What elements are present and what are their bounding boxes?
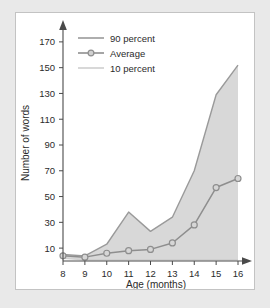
data-point-marker	[169, 240, 175, 246]
chart-panel: 1030507090110130150170 8910111213141516 …	[15, 12, 255, 290]
y-axis-ticks	[59, 42, 63, 248]
y-axis-title: Number of words	[20, 105, 31, 181]
y-tick-label: 10	[44, 243, 55, 254]
legend-label-10-percent: 10 percent	[110, 63, 155, 74]
legend-item-average: Average	[78, 48, 145, 59]
x-tick-label: 11	[124, 268, 134, 279]
y-tick-label: 150	[39, 62, 55, 73]
y-axis-arrow-icon	[59, 20, 67, 30]
y-axis	[59, 20, 67, 261]
x-axis-ticks	[63, 261, 238, 265]
data-point-marker	[82, 254, 88, 260]
x-tick-label: 13	[167, 268, 178, 279]
legend-marker-average	[88, 50, 94, 56]
y-tick-label: 90	[44, 139, 55, 150]
y-tick-label: 30	[44, 217, 55, 228]
x-tick-label: 12	[145, 268, 156, 279]
word-count-growth-chart: 1030507090110130150170 8910111213141516 …	[16, 13, 254, 289]
chart-legend: 90 percent Average 10 percent	[78, 33, 155, 74]
x-tick-label: 10	[101, 268, 112, 279]
y-tick-label: 110	[40, 114, 55, 125]
x-axis-title: Age (months)	[126, 279, 186, 289]
figure-root: 1030507090110130150170 8910111213141516 …	[0, 0, 270, 308]
y-tick-label: 170	[39, 36, 55, 47]
x-tick-label: 15	[211, 268, 222, 279]
data-point-marker	[104, 250, 110, 256]
data-point-marker	[235, 176, 241, 182]
y-tick-label: 50	[44, 191, 55, 202]
legend-label-90-percent: 90 percent	[110, 33, 155, 44]
x-axis-tick-labels: 8910111213141516	[60, 268, 243, 279]
legend-item-90-percent: 90 percent	[78, 33, 155, 44]
data-point-marker	[148, 246, 154, 252]
x-tick-label: 14	[189, 268, 200, 279]
legend-item-10-percent: 10 percent	[78, 63, 155, 74]
x-tick-label: 16	[233, 268, 244, 279]
x-tick-label: 8	[60, 268, 65, 279]
y-tick-label: 70	[44, 165, 55, 176]
y-tick-label: 130	[39, 88, 55, 99]
x-tick-label: 9	[82, 268, 87, 279]
x-axis-arrow-icon	[242, 257, 252, 265]
data-point-marker	[191, 222, 197, 228]
legend-label-average: Average	[110, 48, 145, 59]
data-point-marker	[126, 248, 132, 254]
y-axis-tick-labels: 1030507090110130150170	[39, 36, 55, 253]
data-point-marker	[213, 185, 219, 191]
